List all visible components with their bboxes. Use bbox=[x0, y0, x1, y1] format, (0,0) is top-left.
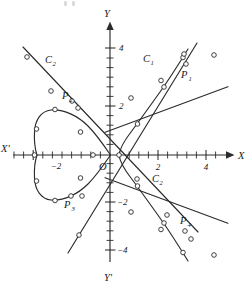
scan-artifact bbox=[64, 1, 67, 6]
point-label-p3-sub: 3 bbox=[71, 205, 76, 212]
curve-label-c1-upper-right: C 1 bbox=[143, 53, 154, 66]
y-tick-label-2: 2 bbox=[119, 101, 124, 111]
point-label-p2: P 2 bbox=[61, 90, 74, 103]
x-tick-label-4: 4 bbox=[204, 162, 209, 172]
point-label-p3-base: P bbox=[63, 199, 71, 210]
x-tick-label-2: 2 bbox=[156, 162, 161, 172]
y-axis-arrow bbox=[106, 22, 113, 31]
scan-artifact-2 bbox=[72, 1, 75, 6]
y-tick-label-neg2: −2 bbox=[117, 197, 128, 207]
curve-label-c2-upper-left: C 2 bbox=[45, 54, 57, 67]
curve-label-c2-upper-left-sub: 2 bbox=[53, 60, 57, 67]
marker-group-line-steep-negative bbox=[25, 55, 194, 242]
curve-label-c2-lower-right-sub: 2 bbox=[160, 179, 164, 186]
x-axis-arrow bbox=[226, 151, 235, 158]
point-label-p1-base: P bbox=[180, 69, 188, 80]
point-label-p4: P 4 bbox=[179, 215, 192, 228]
y-tick-label-neg4: −4 bbox=[117, 245, 128, 255]
point-label-p4-sub: 4 bbox=[188, 221, 192, 228]
point-label-p1: P 1 bbox=[180, 69, 192, 82]
x-axis-label-left: X' bbox=[0, 143, 10, 154]
line-c2-steep bbox=[68, 43, 197, 253]
marker-group-line-c2-lower bbox=[129, 210, 217, 258]
figure-canvas: X X' Y Y' O −2 2 4 4 2 −2 −4 C 2 C 1 C 2… bbox=[0, 0, 252, 288]
x-tick-label-neg2: −2 bbox=[51, 161, 62, 171]
point-label-p1-sub: 1 bbox=[189, 75, 192, 82]
origin-label: O bbox=[99, 161, 107, 172]
point-label-p4-base: P bbox=[179, 215, 187, 226]
point-label-p2-sub: 2 bbox=[70, 96, 74, 103]
x-axis-label-right: X bbox=[237, 150, 245, 161]
point-label-p2-base: P bbox=[61, 90, 69, 101]
curve-label-c1-upper-right-sub: 1 bbox=[151, 59, 154, 66]
y-axis-label-top: Y bbox=[104, 8, 111, 19]
coordinate-plot: X X' Y Y' O −2 2 4 4 2 −2 −4 C 2 C 1 C 2… bbox=[0, 0, 252, 288]
point-label-p3: P 3 bbox=[63, 199, 76, 212]
curve-label-c2-lower-right: C 2 bbox=[152, 173, 164, 186]
y-axis-label-bottom: Y' bbox=[104, 272, 113, 283]
y-tick-label-4: 4 bbox=[119, 43, 124, 53]
marker-group-line-c1 bbox=[129, 53, 217, 101]
